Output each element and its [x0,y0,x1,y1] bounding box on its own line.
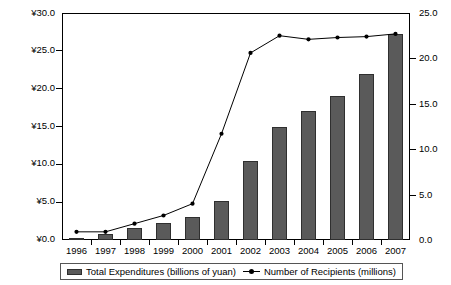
bar-1997 [98,234,113,240]
bar-1999 [156,223,171,240]
x-axis-tick [294,240,295,245]
y-right-tick-label: 10.0 [419,144,451,154]
x-axis-tick [381,240,382,245]
y-left-tick-label: ¥10.0 [3,158,55,168]
bar-2005 [330,96,345,240]
x-axis-tick [178,240,179,245]
legend-entry-expenditures: Total Expenditures (billions of yuan) [67,266,236,277]
y-left-tick-label: ¥20.0 [3,83,55,93]
y-right-tick-label: 5.0 [419,190,451,200]
y-left-tick [56,164,62,165]
x-axis-tick [265,240,266,245]
x-axis-tick [149,240,150,245]
y-right-tick-label: 0.0 [419,235,451,245]
bar-1996 [69,238,84,240]
y-right-tick-label: 20.0 [419,53,451,63]
y-left-tick-label: ¥5.0 [3,196,55,206]
bar-2007 [388,34,403,240]
y-left-tick [56,202,62,203]
y-right-tick-label: 25.0 [419,8,451,18]
y-right-tick [410,195,416,196]
x-axis-tick [207,240,208,245]
plot-area [62,13,410,240]
legend-label-recipients: Number of Recipients (millions) [264,266,396,277]
x-axis-label-2007: 2007 [376,246,416,256]
x-axis-tick [236,240,237,245]
y-right-tick [410,104,416,105]
y-right-tick [410,58,416,59]
y-left-tick [56,50,62,51]
y-left-tick-label: ¥25.0 [3,45,55,55]
bar-swatch-icon [67,269,82,275]
bar-1998 [127,228,142,240]
x-axis-tick [120,240,121,245]
x-axis-tick [91,240,92,245]
y-left-tick-label: ¥0.0 [3,234,55,244]
bar-2003 [272,127,287,240]
y-left-tick [56,126,62,127]
legend-entry-recipients: Number of Recipients (millions) [243,266,396,277]
y-right-tick-label: 15.0 [419,99,451,109]
y-left-tick-label: ¥15.0 [3,121,55,131]
bar-2004 [301,111,316,240]
x-axis-tick [323,240,324,245]
y-left-tick [56,88,62,89]
chart-legend: Total Expenditures (billions of yuan) Nu… [60,263,403,280]
bar-2000 [185,217,200,240]
line-marker-icon [243,268,260,275]
x-axis-tick [352,240,353,245]
chart-container: ¥30.0 ¥25.0 ¥20.0 ¥15.0 ¥10.0 ¥5.0 ¥0.0 … [0,0,451,285]
bar-2001 [214,201,229,240]
legend-label-expenditures: Total Expenditures (billions of yuan) [86,266,236,277]
bar-2002 [243,161,258,240]
bar-2006 [359,74,374,240]
y-right-tick [410,149,416,150]
y-left-tick-label: ¥30.0 [3,8,55,18]
